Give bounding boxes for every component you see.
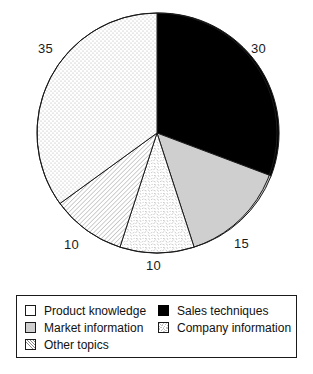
pie-value-label-product-knowledge: 35 [38,42,53,55]
pie-value-label-sales-techniques: 30 [251,42,266,55]
pie-value-label-company-information: 10 [146,259,161,272]
legend-column-right: Sales techniques Company information [158,302,291,336]
legend-column-left: Product knowledge Market information Oth… [25,302,146,353]
legend-item-other-topics: Other topics [25,336,146,353]
legend-swatch-other-topics-icon [25,339,36,350]
legend-swatch-company-information-icon [158,322,169,333]
legend-swatch-market-information-icon [25,322,36,333]
legend-item-product-knowledge: Product knowledge [25,302,146,319]
legend-label-sales-techniques: Sales techniques [177,305,268,317]
legend-swatch-sales-techniques-icon [158,305,169,316]
legend-label-product-knowledge: Product knowledge [44,305,146,317]
legend-item-company-information: Company information [158,319,291,336]
chart-legend: Product knowledge Market information Oth… [16,295,297,358]
legend-item-market-information: Market information [25,319,146,336]
legend-label-company-information: Company information [177,322,291,334]
pie-value-label-other-topics: 10 [64,238,79,251]
pie-value-label-market-information: 15 [234,237,249,250]
legend-label-other-topics: Other topics [44,339,109,351]
legend-item-sales-techniques: Sales techniques [158,302,291,319]
pie-chart-plot-area: 35 30 15 10 10 [0,0,313,285]
legend-label-market-information: Market information [44,322,143,334]
legend-swatch-product-knowledge-icon [25,305,36,316]
pie-chart-figure: 35 30 15 10 10 Product knowledge Market … [0,0,313,374]
